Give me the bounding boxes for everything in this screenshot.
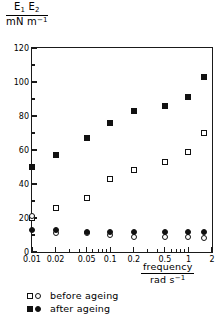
open-circle-icon (35, 293, 41, 299)
y-axis-tick-label: 80 (19, 112, 29, 121)
y-axis-minor-tick (32, 132, 35, 133)
y-axis-tick-label: 40 (19, 180, 29, 189)
data-point (201, 130, 207, 136)
data-point (185, 149, 191, 155)
data-point (84, 195, 90, 201)
data-point (201, 229, 207, 235)
x-axis-title-numerator: frequency (141, 262, 194, 274)
legend-label-before-ageing: before ageing (50, 289, 119, 302)
x-axis-tick-label: 0.1 (104, 255, 117, 264)
y-axis-minor-tick (32, 64, 35, 65)
x-axis-tick (55, 247, 56, 252)
x-axis-tick (133, 247, 134, 252)
legend-symbols-before-ageing (27, 293, 45, 299)
legend-item-before-ageing: before ageing (27, 289, 119, 302)
y-axis-minor-tick (32, 234, 35, 235)
y-axis-minor-tick (32, 98, 35, 99)
x-axis-minor-tick (98, 249, 99, 252)
data-point (201, 235, 207, 241)
filled-square-icon (27, 306, 33, 312)
y-axis-tick (32, 81, 37, 82)
x-axis-tick-label: 0.02 (47, 255, 65, 264)
data-point (29, 213, 35, 219)
y-axis-title-numerator: E1 E2 (6, 2, 48, 16)
y-axis-tick (32, 47, 37, 48)
x-axis-minor-tick (171, 249, 172, 252)
data-point (107, 229, 113, 235)
x-axis-tick-label: 0.01 (23, 255, 41, 264)
data-point (162, 229, 168, 235)
y-axis-title-denominator: mN m−1 (6, 16, 48, 28)
plot-area: 0204060801001200.010.020.050.10.20.512 (31, 47, 213, 253)
x-axis-tick (164, 247, 165, 252)
x-axis-minor-tick (102, 249, 103, 252)
legend-symbols-after-ageing (27, 306, 45, 312)
data-point (162, 103, 168, 109)
y-axis-tick-label: 60 (19, 146, 29, 155)
data-point (84, 135, 90, 141)
data-point (29, 227, 35, 233)
data-point (131, 167, 137, 173)
x-axis-title: frequency rad s−1 (141, 262, 194, 286)
data-point (29, 164, 35, 170)
y-axis-minor-tick (32, 200, 35, 201)
legend-label-after-ageing: after ageing (50, 302, 110, 315)
y-axis-tick-label: 120 (14, 44, 29, 53)
x-axis-tick (211, 247, 212, 252)
data-point (185, 229, 191, 235)
data-point (131, 229, 137, 235)
data-point (131, 108, 137, 114)
legend-item-after-ageing: after ageing (27, 302, 119, 315)
data-point (162, 159, 168, 165)
x-axis-minor-tick (147, 249, 148, 252)
y-axis-tick-label: 100 (14, 78, 29, 87)
x-axis-minor-tick (92, 249, 93, 252)
y-axis-tick-label: 20 (19, 214, 29, 223)
x-axis-tick (110, 247, 111, 252)
x-axis-minor-tick (184, 249, 185, 252)
open-square-icon (27, 293, 33, 299)
data-point (53, 227, 59, 233)
x-axis-tick (86, 247, 87, 252)
data-point (53, 205, 59, 211)
x-axis-minor-tick (69, 249, 70, 252)
data-point (107, 176, 113, 182)
y-axis-title: E1 E2 mN m−1 (6, 2, 48, 28)
scatter-chart: E1 E2 mN m−1 0204060801001200.010.020.05… (0, 0, 220, 318)
x-axis-minor-tick (180, 249, 181, 252)
x-axis-minor-tick (106, 249, 107, 252)
x-axis-tick (31, 247, 32, 252)
y-axis-tick (32, 149, 37, 150)
x-axis-title-denominator: rad s−1 (141, 274, 194, 285)
x-axis-tick-label: 0.05 (78, 255, 96, 264)
filled-circle-icon (35, 306, 41, 312)
data-point (53, 152, 59, 158)
x-axis-minor-tick (79, 249, 80, 252)
x-axis-tick (188, 247, 189, 252)
x-axis-minor-tick (157, 249, 158, 252)
legend: before ageing after ageing (27, 289, 119, 315)
data-point (185, 94, 191, 100)
x-axis-tick-label: 2 (209, 255, 214, 264)
y-axis-tick (32, 183, 37, 184)
data-point (84, 229, 90, 235)
data-point (107, 120, 113, 126)
y-axis-tick (32, 251, 37, 252)
y-axis-tick (32, 115, 37, 116)
data-point (201, 74, 207, 80)
x-axis-tick-label: 0.2 (127, 255, 140, 264)
x-axis-minor-tick (176, 249, 177, 252)
